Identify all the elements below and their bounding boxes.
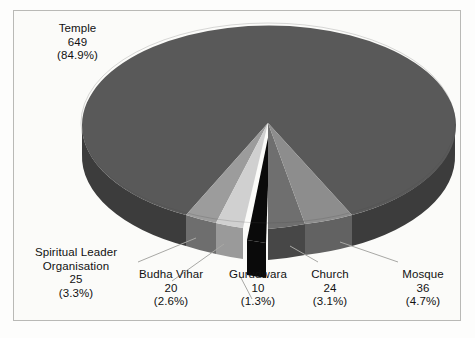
pie-label-budha-vihar: Budha Vihar 20 (2.6%) bbox=[128, 268, 214, 309]
pie-label-mosque-pct: (4.7%) bbox=[390, 295, 456, 309]
pie-label-budha-name: Budha Vihar bbox=[128, 268, 214, 282]
pie-label-gurudwara: Gurudwara 10 (1.3%) bbox=[218, 268, 298, 309]
pie-label-spiritual-name-line2: Organisation bbox=[16, 260, 136, 274]
pie-label-spiritual-leader-organisation: Spiritual Leader Organisation 25 (3.3%) bbox=[16, 246, 136, 300]
pie-label-temple: Temple 649 (84.9%) bbox=[30, 22, 125, 63]
pie-label-spiritual-pct: (3.3%) bbox=[16, 287, 136, 301]
pie-label-church: Church 24 (3.1%) bbox=[300, 268, 360, 309]
pie-label-temple-value: 649 bbox=[30, 36, 125, 50]
pie-label-mosque: Mosque 36 (4.7%) bbox=[390, 268, 456, 309]
leader-line-spiritual bbox=[138, 238, 196, 262]
pie-label-church-name: Church bbox=[300, 268, 360, 282]
pie-label-church-value: 24 bbox=[300, 282, 360, 296]
slice-wall-church bbox=[268, 224, 305, 260]
pie-label-budha-pct: (2.6%) bbox=[128, 295, 214, 309]
pie-label-gurudwara-pct: (1.3%) bbox=[218, 295, 298, 309]
pie-label-gurudwara-name: Gurudwara bbox=[218, 268, 298, 282]
pie-label-church-pct: (3.1%) bbox=[300, 295, 360, 309]
pie-label-spiritual-name-line1: Spiritual Leader bbox=[16, 246, 136, 260]
pie-label-mosque-name: Mosque bbox=[390, 268, 456, 282]
pie-label-gurudwara-value: 10 bbox=[218, 282, 298, 296]
pie-chart-figure: Temple 649 (84.9%) Spiritual Leader Orga… bbox=[0, 0, 475, 338]
pie-label-temple-pct: (84.9%) bbox=[30, 49, 125, 63]
pie-label-mosque-value: 36 bbox=[390, 282, 456, 296]
pie-label-spiritual-value: 25 bbox=[16, 273, 136, 287]
leader-line-mosque bbox=[340, 242, 398, 262]
pie-label-budha-value: 20 bbox=[128, 282, 214, 296]
pie-label-temple-name: Temple bbox=[30, 22, 125, 36]
slice-wall-budha bbox=[216, 223, 243, 259]
